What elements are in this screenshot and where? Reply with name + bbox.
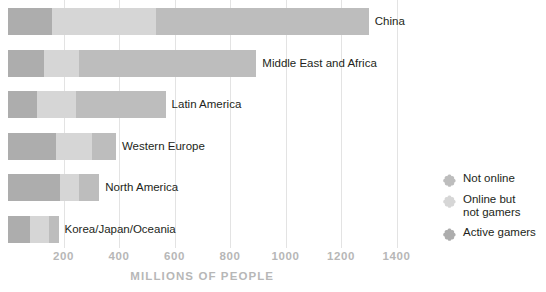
legend-item[interactable]: Not online xyxy=(443,172,546,186)
legend-label-line: Not online xyxy=(463,172,515,185)
gridline-400 xyxy=(119,0,120,248)
bar-segment xyxy=(52,8,155,35)
bar-segment xyxy=(79,50,257,77)
legend-item[interactable]: Active gamers xyxy=(443,226,546,240)
bar-segment xyxy=(56,133,92,160)
bar-label: Western Europe xyxy=(122,133,205,160)
stacked-bar-chart: ChinaMiddle East and AfricaLatin America… xyxy=(0,0,546,292)
x-tick-label: 200 xyxy=(53,250,74,262)
gridline-1200 xyxy=(341,0,342,248)
bar-row xyxy=(8,174,99,201)
legend: Not onlineOnline butnot gamersActive gam… xyxy=(443,172,546,247)
bar-segment xyxy=(60,174,79,201)
bar-segment xyxy=(8,133,56,160)
bar-segment xyxy=(44,50,79,77)
gridline-1000 xyxy=(286,0,287,248)
x-tick-label: 800 xyxy=(220,250,241,262)
x-tick-label: 1000 xyxy=(272,250,300,262)
bar-segment xyxy=(156,8,369,35)
bar-segment xyxy=(76,91,166,118)
gridlines xyxy=(0,0,430,248)
bar-row xyxy=(8,91,166,118)
gridline-800 xyxy=(230,0,231,248)
legend-label-line: not gamers xyxy=(463,206,521,219)
clover-marker-icon xyxy=(443,173,456,186)
bar-segment xyxy=(49,216,58,243)
x-tick-label: 400 xyxy=(109,250,130,262)
clover-marker-icon xyxy=(443,227,456,240)
bar-segment xyxy=(8,8,52,35)
gridline-200 xyxy=(64,0,65,248)
legend-label-line: Active gamers xyxy=(463,226,536,239)
legend-label-line: Online but xyxy=(463,193,521,206)
bar-row xyxy=(8,216,59,243)
bar-segment xyxy=(92,133,116,160)
legend-item[interactable]: Online butnot gamers xyxy=(443,193,546,219)
bar-segment xyxy=(8,91,37,118)
gridline-1400 xyxy=(397,0,398,248)
x-tick-label: 600 xyxy=(164,250,185,262)
bar-segment xyxy=(37,91,76,118)
bar-label: China xyxy=(375,8,405,35)
bar-segment xyxy=(30,216,49,243)
bar-segment xyxy=(8,174,60,201)
bar-label: Korea/Japan/Oceania xyxy=(65,216,176,243)
bar-row xyxy=(8,50,256,77)
x-axis-title: MILLIONS OF PEOPLE xyxy=(130,270,274,282)
plot-area: ChinaMiddle East and AfricaLatin America… xyxy=(0,0,430,292)
bar-segment xyxy=(8,216,30,243)
x-tick-label: 1200 xyxy=(327,250,355,262)
legend-label: Active gamers xyxy=(463,226,536,239)
bar-row xyxy=(8,133,116,160)
x-tick-label: 1400 xyxy=(383,250,411,262)
bar-segment xyxy=(79,174,99,201)
clover-marker-icon xyxy=(443,194,456,207)
gridline-600 xyxy=(175,0,176,248)
bar-label: Middle East and Africa xyxy=(262,50,376,77)
bar-label: North America xyxy=(105,174,178,201)
legend-label: Online butnot gamers xyxy=(463,193,521,219)
bar-row xyxy=(8,8,369,35)
legend-label: Not online xyxy=(463,172,515,185)
bar-label: Latin America xyxy=(172,91,242,118)
bar-segment xyxy=(8,50,44,77)
